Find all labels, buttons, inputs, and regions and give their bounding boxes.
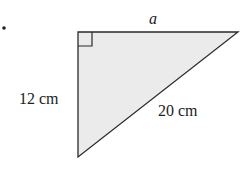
hypotenuse-label: 20 cm bbox=[158, 102, 198, 119]
triangle-diagram: a 12 cm 20 cm bbox=[0, 0, 245, 178]
right-triangle bbox=[78, 32, 238, 157]
side-12cm-label: 12 cm bbox=[19, 90, 59, 107]
side-a-label: a bbox=[149, 10, 157, 27]
bullet-dot bbox=[2, 26, 6, 30]
